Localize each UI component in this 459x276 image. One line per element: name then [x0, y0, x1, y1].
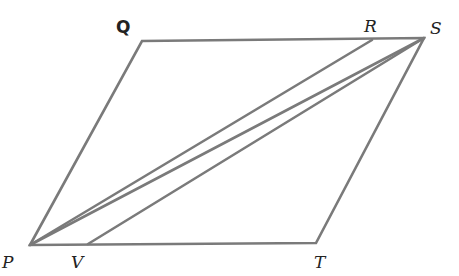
label-v: V [71, 252, 85, 272]
segment-ps [30, 38, 424, 245]
label-p: P [1, 252, 14, 272]
segment-vs [88, 38, 424, 244]
geometry-diagram: Q R S P V T [0, 0, 459, 276]
segment-pr [30, 40, 372, 245]
label-s: S [430, 18, 442, 38]
label-q: Q [116, 17, 130, 37]
label-r: R [363, 16, 377, 36]
label-t: T [314, 252, 327, 272]
